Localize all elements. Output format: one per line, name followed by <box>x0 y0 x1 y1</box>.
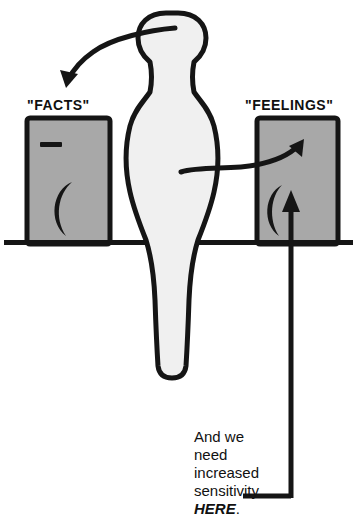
feelings-box-body <box>257 118 338 244</box>
feelings-control-box <box>257 118 338 244</box>
caption-line-5: HERE. <box>194 500 314 518</box>
caption-emphasis: HERE <box>194 500 236 517</box>
caption-line-2: need <box>194 446 314 464</box>
feelings-label: "FEELINGS" <box>245 98 333 112</box>
facts-control-box <box>27 118 110 244</box>
caption-line-1: And we <box>194 428 314 446</box>
caption-line-3: increased <box>194 464 314 482</box>
facts-box-body <box>27 118 110 244</box>
facts-level-dash <box>40 142 62 147</box>
illustration-canvas: "FACTS" "FEELINGS" And we need increased… <box>0 0 357 525</box>
caption-block: And we need increased sensitivity HERE. <box>194 428 314 518</box>
caption-line-4: sensitivity <box>194 482 314 500</box>
caption-period: . <box>236 500 240 517</box>
facts-label: "FACTS" <box>27 98 90 112</box>
